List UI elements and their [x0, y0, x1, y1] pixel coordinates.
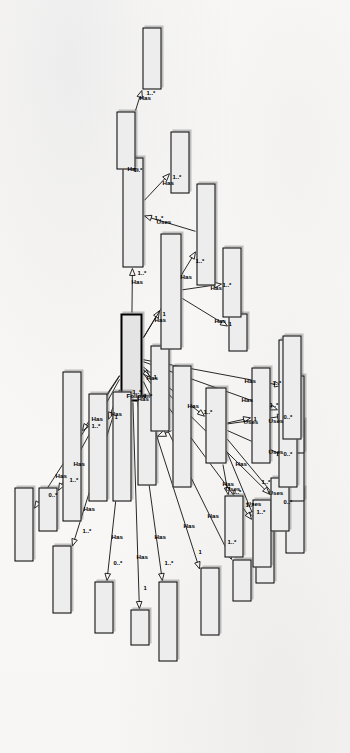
- class-node-data-collection[interactable]: [150, 345, 169, 431]
- class-node-exp-design[interactable]: [282, 335, 301, 439]
- class-node-spl-name[interactable]: [116, 111, 135, 169]
- class-node-research-topic[interactable]: [158, 581, 177, 661]
- class-node-exp-template[interactable]: [112, 391, 131, 501]
- class-node-threat-spl[interactable]: [172, 365, 191, 487]
- class-node-conduction[interactable]: [160, 233, 181, 349]
- class-node-aim[interactable]: [130, 609, 149, 645]
- class-node-spl-artifact[interactable]: [170, 131, 189, 193]
- class-node-task[interactable]: [232, 559, 251, 601]
- class-node-desc-statistic[interactable]: [251, 367, 270, 463]
- class-node-spl-source[interactable]: [142, 27, 161, 89]
- diagram-canvas: Has0..*Has1..*Has1..*Has1Follow1..*Has1.…: [0, 0, 350, 753]
- class-node-result[interactable]: [38, 487, 57, 531]
- class-node-exp-material[interactable]: [122, 157, 143, 267]
- class-node-hypothesis[interactable]: [252, 499, 271, 567]
- class-node-pilot-project[interactable]: [52, 545, 71, 613]
- class-node-environment[interactable]: [222, 247, 241, 317]
- rotated-diagram-canvas: Has0..*Has1..*Has1..*Has1Follow1..*Has1.…: [0, 0, 350, 753]
- diagram-page: Has0..*Has1..*Has1..*Has1Follow1..*Has1.…: [0, 0, 350, 753]
- class-node-exp-package[interactable]: [88, 393, 107, 501]
- class-node-size-sample[interactable]: [200, 567, 219, 635]
- class-node-data-analysis[interactable]: [205, 387, 226, 463]
- class-node-experiment[interactable]: [120, 313, 142, 401]
- class-node-implications[interactable]: [62, 371, 81, 521]
- class-node-date[interactable]: [228, 313, 247, 351]
- class-node-effect-size[interactable]: [224, 495, 243, 557]
- class-node-validation[interactable]: [196, 183, 215, 285]
- class-node-mortality-rate[interactable]: [14, 487, 33, 561]
- class-node-training[interactable]: [94, 581, 113, 633]
